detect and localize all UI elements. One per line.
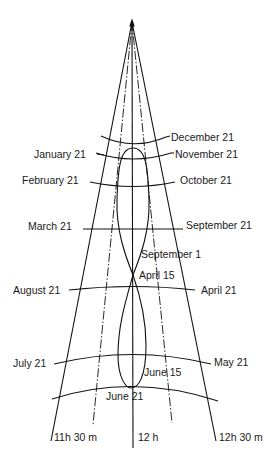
- label-august-21: August 21: [13, 284, 60, 296]
- quarter-hour-line-right: [132, 22, 172, 423]
- arc-aug-apr-21: [69, 287, 195, 291]
- label-july-21: July 21: [13, 357, 46, 369]
- label-11h30m: 11h 30 m: [54, 431, 97, 443]
- quarter-hour-line-left: [93, 22, 132, 425]
- label-12h30m: 12h 30 m: [219, 431, 263, 443]
- hour-line-12h: [132, 22, 133, 448]
- label-march-21: March 21: [28, 220, 72, 232]
- hour-line-12h30: [132, 22, 216, 441]
- label-april-15: April 15: [139, 269, 175, 281]
- label-12h: 12 h: [138, 431, 159, 443]
- label-february-21: February 21: [22, 174, 79, 186]
- label-may-21: May 21: [214, 356, 249, 368]
- label-june-15: June 15: [144, 366, 182, 378]
- label-january-21: January 21: [34, 148, 86, 160]
- label-april-21: April 21: [201, 284, 237, 296]
- hour-lines: [51, 20, 216, 448]
- label-december-21: December 21: [171, 131, 234, 143]
- label-september-1: September 1: [141, 248, 201, 260]
- label-october-21: October 21: [180, 174, 232, 186]
- label-june-21: June 21: [106, 390, 144, 402]
- hour-labels: 11h 30 m 12 h 12h 30 m: [54, 431, 263, 443]
- analemma-lower-loop: [118, 275, 146, 388]
- date-labels-left: January 21 February 21 March 21 August 2…: [13, 148, 86, 369]
- label-november-21: November 21: [175, 148, 238, 160]
- label-september-21: September 21: [186, 219, 252, 231]
- analemma-diagram: January 21 February 21 March 21 August 2…: [0, 0, 279, 465]
